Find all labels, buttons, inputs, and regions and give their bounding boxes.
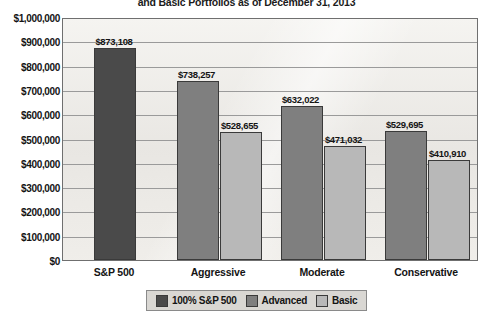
bar-value-label: $410,910 [419, 148, 477, 159]
y-axis-tick-label: $0 [0, 256, 60, 267]
bar-value-label: $528,655 [211, 120, 269, 131]
legend-swatch-icon [316, 295, 328, 307]
y-axis-tick-label: $700,000 [0, 85, 60, 96]
bar [281, 106, 323, 260]
x-axis-category-label: Conservative [374, 266, 478, 278]
legend-swatch-icon [246, 295, 258, 307]
y-axis-tick-label: $100,000 [0, 231, 60, 242]
bar [324, 146, 366, 260]
bar-chart: and Basic Portfolios as of December 31, … [0, 0, 493, 318]
bar [428, 160, 470, 260]
bar-value-label: $529,695 [376, 119, 434, 130]
bar [220, 132, 262, 260]
bar-value-label: $873,108 [85, 36, 143, 47]
y-axis-tick-label: $500,000 [0, 134, 60, 145]
y-axis-tick-label: $900,000 [0, 37, 60, 48]
y-axis-tick-label: $300,000 [0, 183, 60, 194]
y-axis-tick-label: $800,000 [0, 61, 60, 72]
legend-label: Basic [332, 295, 357, 306]
chart-legend: 100% S&P 500AdvancedBasic [146, 290, 367, 311]
y-axis: $1,000,000$900,000$800,000$700,000$600,0… [0, 0, 60, 318]
legend-item: Basic [316, 295, 357, 307]
bar-value-label: $738,257 [168, 69, 226, 80]
x-axis-category-label: Aggressive [166, 266, 270, 278]
y-axis-tick-label: $1,000,000 [0, 13, 60, 24]
y-axis-tick-label: $200,000 [0, 207, 60, 218]
bar [94, 48, 136, 260]
legend-label: 100% S&P 500 [172, 295, 237, 306]
x-axis-category-label: S&P 500 [62, 266, 166, 278]
legend-swatch-icon [156, 295, 168, 307]
legend-item: Advanced [246, 295, 307, 307]
legend-item: 100% S&P 500 [156, 295, 237, 307]
legend-label: Advanced [262, 295, 307, 306]
chart-title: and Basic Portfolios as of December 31, … [0, 0, 493, 11]
y-axis-tick-label: $400,000 [0, 158, 60, 169]
bar-value-label: $632,022 [272, 94, 330, 105]
plot-area [62, 18, 478, 261]
x-axis-category-label: Moderate [270, 266, 374, 278]
bar-value-label: $471,032 [315, 134, 373, 145]
y-axis-tick-label: $600,000 [0, 110, 60, 121]
bar [177, 81, 219, 260]
gridline [63, 18, 477, 19]
